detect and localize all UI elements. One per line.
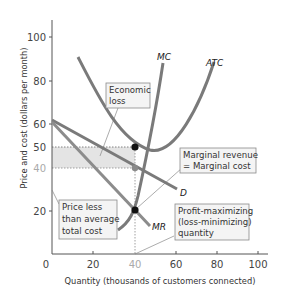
annotation-price-less-than-atc: Price less than average total cost [59,200,119,239]
annotation-economic-loss: Economic loss [106,83,151,108]
atc-label: ATC [205,58,224,68]
x-tick-0: 0 [43,259,49,270]
annotation-price-line3: total cost [62,226,103,236]
y-tick-50: 50 [33,142,46,153]
point-atc-40-50 [131,143,138,150]
mc-label: MC [157,52,172,62]
annotation-mr-equals-mc: Marginal revenue = Marginal cost [180,148,258,173]
x-tick-40: 40 [129,259,142,270]
annotation-price-line2: than average [62,214,119,224]
annotation-profit-max-quantity: Profit-maximizing (loss-minimizing) quan… [175,204,253,240]
x-tick-100: 100 [248,259,267,270]
mr-label: MR [152,222,166,232]
annotation-qty-line1: Profit-maximizing [178,206,253,216]
y-tick-80: 80 [33,76,46,87]
y-tick-20: 20 [33,206,46,217]
annotation-qty-line3: quantity [178,228,214,238]
x-tick-20: 20 [87,259,100,270]
x-axis-title: Quantity (thousands of customers connect… [65,276,256,286]
annotation-economic-loss-line2: loss [109,96,126,106]
annotation-economic-loss-line1: Economic [109,85,151,95]
y-tick-40: 40 [33,163,46,174]
chart: 100 80 60 50 40 20 0 20 40 60 80 100 Qua… [0,0,292,296]
annotation-price-line1: Price less [62,202,103,212]
annotation-mr-equals-mc-line2: = Marginal cost [183,161,251,171]
point-mrmc-40-20 [131,206,138,213]
d-label: D [180,188,187,198]
point-d-40-40 [132,165,138,171]
annotation-mr-equals-mc-line1: Marginal revenue [183,150,258,160]
annotation-qty-line2: (loss-minimizing) [178,217,252,227]
y-tick-100: 100 [27,32,46,43]
x-tick-60: 60 [170,259,183,270]
y-axis-title: Price and cost (dollars per month) [19,47,29,188]
y-tick-60: 60 [33,119,46,130]
x-tick-80: 80 [211,259,224,270]
